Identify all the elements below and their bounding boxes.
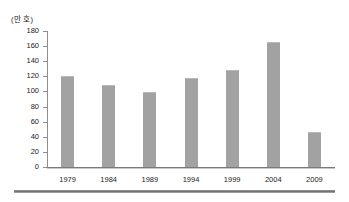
x-axis-label-1994: 1994 (171, 175, 211, 184)
y-axis-tick-label: 40 (9, 132, 39, 141)
y-axis-tick-label: 160 (9, 41, 39, 50)
y-axis-tick-label: 180 (9, 26, 39, 35)
bar-2009 (308, 132, 321, 167)
y-axis-tick-label: 80 (9, 102, 39, 111)
y-axis-unit-label: (만 호) (11, 13, 33, 24)
y-axis-tick (43, 152, 47, 153)
y-axis-tick (43, 76, 47, 77)
y-axis-tick (43, 91, 47, 92)
x-axis-label-1979: 1979 (48, 175, 88, 184)
y-axis-tick-label: 100 (9, 86, 39, 95)
y-axis-tick (43, 137, 47, 138)
x-axis-baseline-shadow (47, 168, 335, 169)
y-axis-tick-label: 0 (9, 162, 39, 171)
plot-area: 180160140120100806040200 197919841989199… (47, 31, 335, 168)
bar-2004 (267, 42, 280, 167)
x-axis-label-1989: 1989 (130, 175, 170, 184)
y-axis-line (47, 31, 48, 168)
x-axis-label-2004: 2004 (253, 175, 293, 184)
bar-1989 (143, 92, 156, 167)
bar-1984 (102, 85, 115, 167)
x-axis-label-2009: 2009 (294, 175, 334, 184)
y-axis-tick-label: 120 (9, 71, 39, 80)
y-axis-tick (43, 107, 47, 108)
y-axis-tick (43, 31, 47, 32)
bar-1994 (185, 78, 198, 167)
y-axis-tick-label: 20 (9, 147, 39, 156)
x-axis-label-1999: 1999 (212, 175, 252, 184)
y-axis-tick-label: 140 (9, 56, 39, 65)
y-axis-tick (43, 167, 47, 168)
x-axis-label-1984: 1984 (89, 175, 129, 184)
y-axis-tick (43, 61, 47, 62)
bar-1979 (61, 76, 74, 167)
bar-1999 (226, 70, 239, 167)
bar-chart-figure: (만 호) 180160140120100806040200 197919841… (0, 0, 349, 202)
y-axis-tick-label: 60 (9, 117, 39, 126)
bottom-rule (14, 190, 335, 193)
y-axis-tick (43, 122, 47, 123)
y-axis-tick (43, 46, 47, 47)
